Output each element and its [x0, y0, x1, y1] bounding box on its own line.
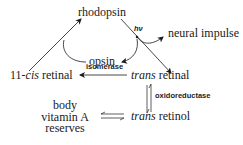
node-11-cis-retinal: 11-cis retinal — [10, 69, 73, 81]
label-light-hv: hν — [134, 25, 143, 33]
trans-retinal-italic: trans — [131, 68, 156, 82]
node-rhodopsin: rhodopsin — [78, 6, 126, 18]
cis-suffix: retinal — [39, 68, 73, 82]
cis-prefix: 11- — [10, 68, 26, 82]
arrow-to-opsin — [122, 39, 137, 62]
light-node — [136, 36, 138, 38]
trans-retinol-suffix: retinol — [156, 109, 190, 123]
arrow-cis-to-rhodopsin — [29, 19, 81, 71]
curve-opsin-to-left — [63, 40, 86, 62]
node-trans-retinal: trans retinal — [131, 69, 189, 81]
cis-italic: cis — [26, 68, 39, 82]
label-isomerase: isomerase — [86, 63, 123, 71]
node-neural-impulse: neural impulse — [168, 27, 239, 39]
label-oxidoreductase: oxidoreductase — [155, 92, 210, 100]
arrow-rhodopsin-to-trans-retinal — [121, 19, 171, 73]
node-body-vitamin-a-reserves: body vitamin A reserves — [38, 100, 92, 135]
node-trans-retinol: trans retinol — [131, 110, 190, 122]
trans-retinal-suffix: retinal — [156, 68, 190, 82]
reserves-line-3: reserves — [38, 123, 92, 135]
trans-retinol-italic: trans — [131, 109, 156, 123]
arrow-to-neural-impulse — [138, 37, 163, 43]
